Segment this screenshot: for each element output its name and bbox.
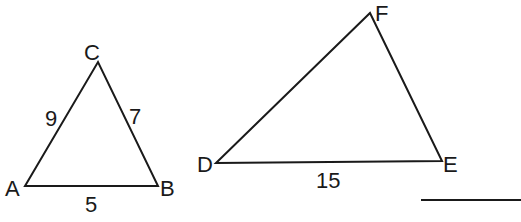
vertex-c-label: C xyxy=(84,42,100,64)
vertex-f-label: F xyxy=(375,3,388,25)
vertex-b-label: B xyxy=(160,178,175,200)
vertex-d-label: D xyxy=(197,154,213,176)
side-ab-label: 5 xyxy=(85,194,97,216)
side-de-label: 15 xyxy=(316,170,340,192)
diagram-canvas xyxy=(0,0,521,222)
vertex-e-label: E xyxy=(443,154,458,176)
triangle-def xyxy=(216,13,442,163)
side-cb-label: 7 xyxy=(129,106,141,128)
side-ca-label: 9 xyxy=(45,108,57,130)
vertex-a-label: A xyxy=(5,178,20,200)
